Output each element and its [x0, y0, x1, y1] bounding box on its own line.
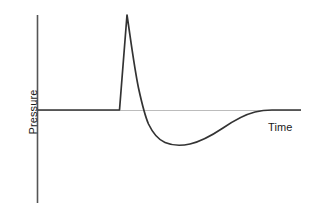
- x-axis-label: Time: [268, 121, 292, 133]
- pressure-time-chart: Pressure Time: [0, 0, 309, 220]
- y-axis-label: Pressure: [27, 90, 39, 135]
- chart-plot-area: [0, 0, 309, 220]
- pressure-waveform-curve: [38, 15, 301, 145]
